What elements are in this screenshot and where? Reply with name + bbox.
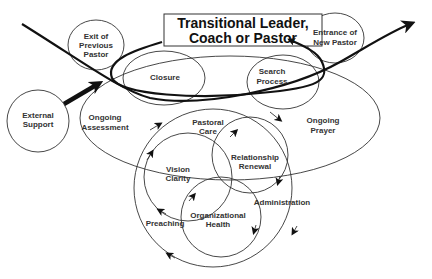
relationship-label-2: Renewal [239,162,271,171]
prayer-arrow [270,112,280,120]
preaching-label: Preaching [146,219,185,228]
vision-label-1: Vision [166,165,190,174]
prayer-label-1: Ongoing [307,116,340,125]
outer-ring-arrow [168,254,175,258]
org-health-label-2: Health [206,220,231,229]
entrance-label-2: New Pastor [313,38,357,47]
org-health-label-1: Organizational [190,211,246,220]
administration-label: Administration [254,198,311,207]
pastoral-care-label-1: Pastoral [192,118,224,127]
entrance-label-1: Entrance of [313,28,357,37]
prayer-label-2: Prayer [311,126,336,135]
exit-label-1: Exit of [84,32,109,41]
vision-arrow [147,152,152,160]
external-support-label-1: External [22,111,54,120]
closure-label: Closure [150,73,180,82]
administration-arrow [293,226,297,233]
leader-loop-arrow [111,40,324,96]
transitional-leader-label-2: Coach or Pastor [189,30,298,46]
transitional-leader-label-1: Transitional Leader, [177,15,309,31]
org-health-up-arrow [189,195,194,201]
pastoral-care-arrow [230,131,236,137]
exit-label-2: Previous [79,41,113,50]
search-label-2: Process [256,77,288,86]
assessment-arrow [150,124,160,130]
vision-label-2: Clarity [166,174,191,183]
transition-process-diagram: Transitional Leader, Coach or Pastor Exi… [0,0,432,279]
search-label-1: Search [259,67,286,76]
relationship-label-1: Relationship [231,153,279,162]
external-support-label-2: Support [23,120,54,129]
org-health-down-arrow [254,225,256,232]
assessment-label-2: Assessment [81,123,128,132]
pastoral-care-label-2: Care [199,127,217,136]
external-support-arrow [64,84,98,104]
assessment-label-1: Ongoing [89,113,122,122]
exit-label-3: Pastor [84,50,109,59]
